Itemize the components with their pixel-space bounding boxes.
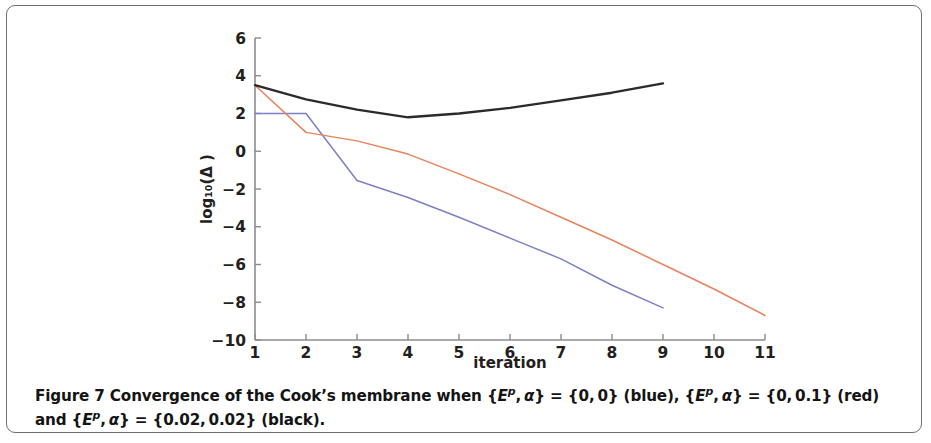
y-axis-tick-label: −8 xyxy=(222,294,246,312)
y-axis-tick-label: −10 xyxy=(211,332,246,350)
x-axis-tick-label: 11 xyxy=(754,344,776,362)
y-axis-ticks: 6420−2−4−6−8−10 xyxy=(211,30,261,350)
figure-caption-line-2: and {Ep, α} = {0.02, 0.02} (black). xyxy=(35,411,325,429)
y-axis-tick-label: −2 xyxy=(222,181,246,199)
x-axis-title: iteration xyxy=(473,354,546,372)
y-axis-tick-label: 6 xyxy=(235,30,246,48)
x-axis-tick-label: 5 xyxy=(454,344,465,362)
figure-caption: Figure 7 Convergence of the Cook’s membr… xyxy=(35,384,910,431)
x-axis-tick-label: 7 xyxy=(556,344,567,362)
figure-caption-line-1: Figure 7 Convergence of the Cook’s membr… xyxy=(35,387,879,405)
x-axis-tick-label: 9 xyxy=(658,344,669,362)
x-axis-tick-label: 4 xyxy=(403,344,414,362)
chart-plot-area: 6420−2−4−6−8−10 1234567891011 iteration … xyxy=(7,6,931,376)
figure-frame: 6420−2−4−6−8−10 1234567891011 iteration … xyxy=(6,5,922,433)
x-axis-tick-label: 8 xyxy=(607,344,618,362)
chart-series-line-1 xyxy=(255,85,765,315)
chart-axes xyxy=(255,38,765,340)
y-axis-tick-label: −4 xyxy=(222,218,246,236)
y-axis-tick-label: 0 xyxy=(235,143,246,161)
x-axis-tick-label: 1 xyxy=(250,344,261,362)
y-axis-tick-label: 4 xyxy=(235,67,246,85)
y-axis-title: log₁₀(Δ ) xyxy=(198,154,216,224)
chart-series-line-0 xyxy=(255,114,663,308)
x-axis-tick-label: 2 xyxy=(301,344,312,362)
y-axis-tick-label: 2 xyxy=(235,105,246,123)
chart-svg: 6420−2−4−6−8−10 1234567891011 iteration … xyxy=(7,6,931,376)
x-axis-tick-label: 3 xyxy=(352,344,363,362)
chart-series-group xyxy=(255,83,765,315)
y-axis-tick-label: −6 xyxy=(222,256,246,274)
chart-series-line-2 xyxy=(255,83,663,117)
x-axis-tick-label: 10 xyxy=(703,344,725,362)
